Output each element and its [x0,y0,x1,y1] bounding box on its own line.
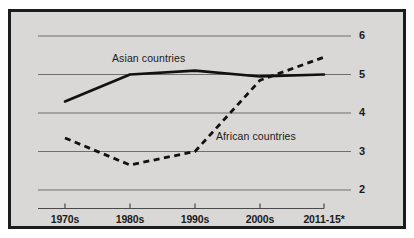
series-line-african-countries [65,57,324,165]
series-annotation-african-countries: African countries [216,130,296,142]
series-line-asian-countries [65,71,324,102]
chart-canvas [11,12,403,226]
gridlines [38,36,351,190]
y-axis-label-2: 2 [359,183,365,195]
chart-figure: 6 5 4 3 2 1970s 1980s 1990s 2000s 2011-1… [0,0,414,238]
x-axis-label-2011-15: 2011-15* [284,213,364,225]
chart-frame: 6 5 4 3 2 1970s 1980s 1990s 2000s 2011-1… [8,9,406,229]
x-axis [38,204,324,209]
series-annotation-asian-countries: Asian countries [112,52,185,64]
y-axis-label-6: 6 [359,29,365,41]
y-axis-label-3: 3 [359,145,365,157]
y-axis-label-5: 5 [359,68,365,80]
y-axis-label-4: 4 [359,106,365,118]
plot-surface: 6 5 4 3 2 1970s 1980s 1990s 2000s 2011-1… [11,12,403,226]
